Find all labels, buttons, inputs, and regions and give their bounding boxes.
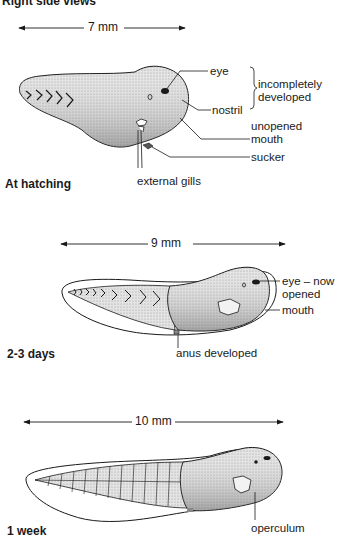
label-anus-developed: anus developed — [176, 347, 257, 359]
label-operculum: operculum — [251, 522, 305, 534]
label-eye-now: eye – now — [282, 275, 334, 287]
stage-label-1-week: 1 week — [7, 524, 46, 538]
tadpole-1-week — [26, 447, 282, 521]
label-sucker: sucker — [251, 151, 285, 163]
label-developed: developed — [258, 91, 311, 103]
label-external-gills: external gills — [137, 175, 201, 187]
tadpole-hatching — [20, 66, 189, 149]
label-unopened: unopened — [251, 120, 302, 132]
stage-label-hatching: At hatching — [5, 177, 71, 191]
label-nostril: nostril — [212, 104, 243, 116]
stage-label-2-3-days: 2-3 days — [7, 347, 55, 361]
label-mouth-2: mouth — [282, 304, 314, 316]
label-mouth: mouth — [251, 133, 283, 145]
length-label-1-week: 10 mm — [133, 414, 174, 428]
tadpole-2-3-days — [62, 267, 276, 335]
label-opened: opened — [282, 288, 320, 300]
length-label-2-3-days: 9 mm — [149, 236, 183, 250]
length-label-hatching: 7 mm — [86, 20, 120, 34]
label-incompletely: incompletely — [258, 78, 322, 90]
label-eye: eye — [210, 65, 229, 77]
